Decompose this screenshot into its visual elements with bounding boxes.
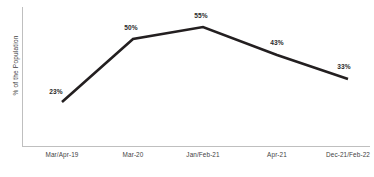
data-label-3: 43% — [270, 39, 284, 46]
x-axis-tick-label-4: Dec-21/Feb-22 — [326, 151, 370, 158]
data-label-0: 23% — [49, 88, 63, 95]
x-axis-tick-label-0: Mar/Apr-19 — [46, 151, 79, 158]
y-axis-title: % of the Population — [12, 14, 19, 118]
x-axis-tick-label-2: Jan/Feb-21 — [186, 151, 219, 158]
line-chart-figure: % of the Population Mar/Apr-19 Mar-20 Ja… — [0, 0, 374, 177]
x-axis-tick-label-1: Mar-20 — [123, 151, 144, 158]
population-trend-line — [62, 27, 348, 102]
data-label-4: 33% — [337, 63, 351, 70]
x-axis-tick-label-3: Apr-21 — [267, 151, 287, 158]
data-label-1: 50% — [124, 24, 138, 31]
data-label-2: 55% — [194, 12, 208, 19]
